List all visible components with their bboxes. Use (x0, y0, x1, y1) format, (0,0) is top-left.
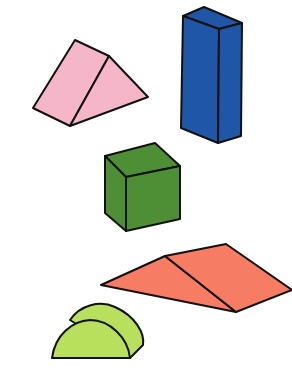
pink-triangular-prism (33, 40, 148, 126)
blue-rectangular-block (181, 7, 242, 143)
green-cube (105, 143, 180, 231)
salmon-wedge (101, 244, 292, 312)
blocks-illustration (0, 0, 292, 370)
lime-half-cylinder (52, 304, 143, 358)
